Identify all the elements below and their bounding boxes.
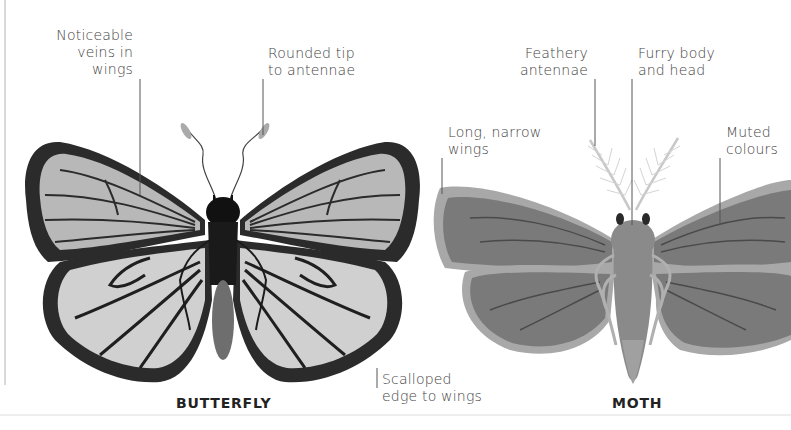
annotation-rounded-tip: Rounded tip to antennae [268, 45, 355, 79]
annotation-line: Furry body [638, 45, 715, 62]
moth-illustration [434, 138, 791, 384]
annotation-line: to antennae [268, 62, 355, 79]
moth-title: MOTH [612, 395, 662, 411]
annotation-noticeable-veins: Noticeable veins in wings [20, 27, 133, 78]
annotation-line: wings [20, 61, 133, 78]
annotation-line: Rounded tip [268, 45, 355, 62]
annotation-line: colours [726, 141, 778, 158]
annotation-line: antennae [500, 62, 588, 79]
annotation-line: Scalloped [382, 371, 482, 388]
annotation-line: Long, narrow [448, 124, 541, 141]
annotation-line: Feathery [500, 45, 588, 62]
annotation-furry-body: Furry body and head [638, 45, 715, 79]
annotation-feathery-antennae: Feathery antennae [500, 45, 588, 79]
butterfly-title: BUTTERFLY [176, 395, 271, 411]
annotation-line: Noticeable [20, 27, 133, 44]
annotation-line: and head [638, 62, 715, 79]
annotation-line: veins in [20, 44, 133, 61]
annotation-muted-colours: Muted colours [726, 124, 778, 158]
annotation-line: Muted [726, 124, 778, 141]
butterfly-illustration [25, 121, 420, 382]
annotation-scalloped-edge: Scalloped edge to wings [382, 371, 482, 405]
annotation-long-narrow-wings: Long, narrow wings [448, 124, 541, 158]
annotation-line: wings [448, 141, 541, 158]
annotation-line: edge to wings [382, 388, 482, 405]
